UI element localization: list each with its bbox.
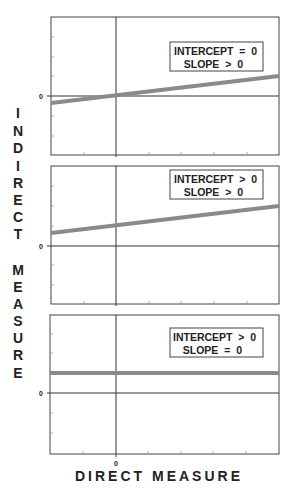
panel-1: 0 INTERCEPT = 0 SLOPE > 0 (39, 17, 279, 157)
panel-3: 0 INTERCEPT > 0 SLOPE = 0 (39, 315, 279, 457)
ylabel-letter: I (16, 158, 20, 174)
ylabel-letter: M (12, 262, 24, 278)
y-axis-label: I N D I R E C T M E A S U R E (12, 105, 24, 381)
regression-line (51, 76, 279, 103)
panel-frame (51, 17, 279, 155)
ylabel-letter: E (13, 192, 22, 208)
legend-slope: SLOPE > 0 (184, 58, 243, 70)
legend: INTERCEPT = 0 SLOPE > 0 (170, 42, 263, 71)
ylabel-letter: I (16, 105, 20, 121)
legend-intercept: INTERCEPT > 0 (174, 173, 257, 185)
ylabel-letter: N (13, 123, 23, 139)
ylabel-letter: R (13, 347, 23, 363)
x-zero-label: 0 (114, 460, 118, 467)
x-axis-label: DIRECT MEASURE (75, 468, 243, 484)
legend-intercept: INTERCEPT > 0 (173, 331, 256, 343)
legend: INTERCEPT > 0 SLOPE = 0 (170, 328, 263, 357)
y-zero-label: 0 (39, 93, 43, 100)
ylabel-letter: E (13, 279, 22, 295)
legend-slope: SLOPE = 0 (183, 344, 242, 356)
ylabel-letter: U (13, 330, 23, 346)
regression-line (51, 206, 279, 233)
ylabel-letter: S (13, 313, 22, 329)
y-zero-label: 0 (39, 243, 43, 250)
ylabel-letter: C (13, 209, 23, 225)
legend-intercept: INTERCEPT = 0 (174, 45, 257, 57)
legend-slope: SLOPE > 0 (184, 186, 243, 198)
panel-2: 0 INTERCEPT > 0 SLOPE > 0 (39, 166, 279, 306)
ylabel-letter: D (13, 140, 23, 156)
ylabel-letter: T (14, 226, 23, 242)
ylabel-letter: A (13, 296, 23, 312)
ylabel-letter: E (13, 365, 22, 381)
y-zero-label: 0 (39, 390, 43, 397)
figure: I N D I R E C T M E A S U R E (0, 0, 295, 493)
legend: INTERCEPT > 0 SLOPE > 0 (170, 170, 263, 199)
ylabel-letter: R (13, 175, 23, 191)
